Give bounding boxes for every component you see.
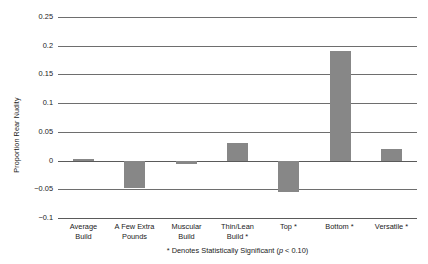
x-axis-tick-label: Muscular Build (161, 222, 212, 241)
bar (227, 143, 248, 161)
y-axis-tick-label: −0.1 (38, 214, 53, 222)
gridline: 0.05 (58, 132, 417, 133)
gridline: 0.15 (58, 74, 417, 75)
x-axis-tick-label: Top * (263, 222, 314, 232)
x-axis-tick-label: Average Build (58, 222, 109, 241)
y-axis-tick-label: 0 (49, 157, 53, 165)
bar (73, 159, 94, 160)
y-axis-title: Proportion Rear Nudity (11, 65, 22, 205)
bar (176, 161, 197, 164)
x-axis-tick-label: Versatile * (366, 222, 417, 232)
gridline: 0.25 (58, 17, 417, 18)
x-axis-tick-label: Bottom * (314, 222, 365, 232)
y-axis-tick-label: 0.05 (39, 128, 53, 136)
plot-area: 0.250.20.150.10.050−0.05−0.1Average Buil… (58, 17, 417, 218)
bar (381, 149, 402, 160)
bar (278, 161, 299, 193)
y-axis-tick-label: 0.15 (39, 70, 53, 78)
chart-footnote: * Denotes Statistically Significant (p <… (58, 246, 417, 255)
footnote-prefix: * Denotes Statistically Significant ( (167, 246, 279, 255)
gridline: 0 (58, 161, 417, 162)
gridline: 0.2 (58, 46, 417, 47)
y-axis-tick-label: 0.2 (43, 42, 53, 50)
y-axis-tick-label: 0.25 (39, 13, 53, 21)
y-axis-tick-label: −0.05 (34, 185, 53, 193)
x-axis-tick-label: A Few Extra Pounds (109, 222, 160, 241)
y-axis-tick-label: 0.1 (43, 99, 53, 107)
gridline: 0.1 (58, 103, 417, 104)
bar-chart: Proportion Rear Nudity 0.250.20.150.10.0… (0, 0, 428, 264)
x-axis-tick-label: Thin/Lean Build * (212, 222, 263, 241)
gridline: −0.1 (58, 218, 417, 219)
bar (124, 161, 145, 189)
bar (330, 51, 351, 160)
gridline: −0.05 (58, 189, 417, 190)
footnote-suffix: < 0.10) (283, 246, 308, 255)
